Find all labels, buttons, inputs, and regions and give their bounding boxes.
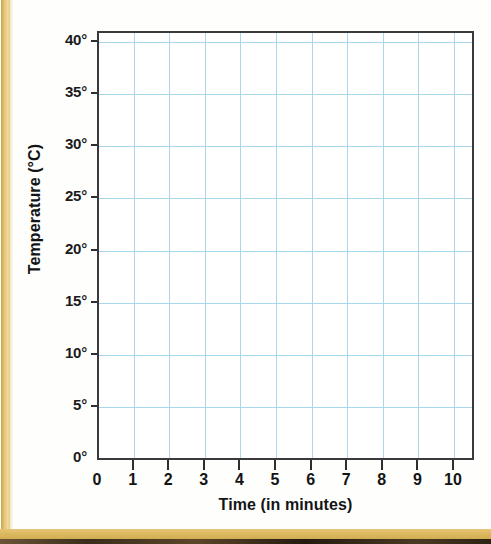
y-axis-tick-label: 25° — [40, 187, 87, 205]
x-axis-tick-label-text: 0 — [80, 471, 114, 489]
x-axis-tick-label: 2 — [151, 471, 185, 491]
x-axis-tick — [203, 460, 205, 470]
y-axis-tick-label-text: 35° — [45, 83, 87, 100]
y-axis-tick-label-text: 10° — [45, 344, 87, 361]
y-axis-tick-label: 35° — [40, 83, 87, 101]
gridline-vertical — [347, 33, 348, 458]
x-axis-title: Time (in minutes) — [97, 496, 474, 514]
y-axis-tick-label: 40° — [40, 31, 87, 49]
page-edge-bottom-shadow — [0, 539, 491, 544]
gridline-vertical — [240, 33, 241, 458]
x-axis-tick-label: 3 — [187, 471, 221, 491]
gridline-horizontal — [99, 251, 472, 252]
y-axis-tick-label-text: 0° — [45, 448, 87, 465]
x-axis-tick-label-text: 2 — [151, 471, 185, 489]
x-axis-tick — [416, 460, 418, 470]
x-axis-tick — [238, 460, 240, 470]
x-axis-tick — [310, 460, 312, 470]
gridline-horizontal — [99, 355, 472, 356]
gridline-horizontal — [99, 198, 472, 199]
x-axis-tick-label: 7 — [329, 471, 363, 491]
graph-page: Temperature (°C) 0°5°10°15°20°25°30°35°4… — [0, 0, 491, 544]
y-axis-tick-label: 10° — [40, 344, 87, 362]
y-axis-tick-label: 5° — [40, 396, 87, 414]
y-axis-tick-label-text: 20° — [45, 240, 87, 257]
plot-area — [97, 31, 474, 460]
x-axis-tick — [132, 460, 134, 470]
page-edge-left — [1, 0, 10, 536]
gridline-vertical — [312, 33, 313, 458]
gridline-vertical — [383, 33, 384, 458]
y-axis-tick-label-text: 15° — [45, 292, 87, 309]
gridline-horizontal — [99, 146, 472, 147]
y-axis-tick-label: 15° — [40, 292, 87, 310]
x-axis-tick-label-text: 4 — [222, 471, 256, 489]
x-axis-tick — [274, 460, 276, 470]
y-axis-tick-label-text: 25° — [45, 187, 87, 204]
x-axis-tick-label: 4 — [222, 471, 256, 491]
x-axis-tick-label-text: 1 — [116, 471, 150, 489]
x-axis-tick-label-text: 3 — [187, 471, 221, 489]
x-axis-tick-label-text: 8 — [365, 471, 399, 489]
gridline-horizontal — [99, 303, 472, 304]
x-axis-tick — [452, 460, 454, 470]
y-axis-tick-label: 20° — [40, 240, 87, 258]
x-axis-tick — [167, 460, 169, 470]
x-axis-tick-label: 9 — [400, 471, 434, 491]
x-axis-tick-label: 5 — [258, 471, 292, 491]
gridline-vertical — [418, 33, 419, 458]
y-axis-tick-label-text: 40° — [45, 31, 87, 48]
x-axis-tick-label-text: 7 — [329, 471, 363, 489]
x-axis-tick-label-text: 5 — [258, 471, 292, 489]
x-axis-tick — [345, 460, 347, 470]
x-axis-tick-label-text: 10 — [436, 471, 470, 489]
y-axis-tick-label: 0° — [40, 448, 87, 466]
x-axis-tick-label: 1 — [116, 471, 150, 491]
gridline-horizontal — [99, 94, 472, 95]
x-axis-tick-label: 6 — [294, 471, 328, 491]
x-axis-tick-label-text: 9 — [400, 471, 434, 489]
x-axis-tick-label: 10 — [436, 471, 470, 491]
y-axis-tick-label-text: 5° — [45, 396, 87, 413]
x-axis-tick-label: 0 — [80, 471, 114, 491]
x-axis-tick — [381, 460, 383, 470]
gridline-horizontal — [99, 407, 472, 408]
gridline-vertical — [276, 33, 277, 458]
gridline-vertical — [134, 33, 135, 458]
gridline-vertical — [454, 33, 455, 458]
gridline-horizontal — [99, 42, 472, 43]
page-edge-left-inner — [10, 0, 13, 536]
y-axis-tick-label-text: 30° — [45, 135, 87, 152]
x-axis-tick-label: 8 — [365, 471, 399, 491]
gridline-vertical — [169, 33, 170, 458]
gridline-vertical — [205, 33, 206, 458]
y-axis-tick-label: 30° — [40, 135, 87, 153]
x-axis-tick-label-text: 6 — [294, 471, 328, 489]
